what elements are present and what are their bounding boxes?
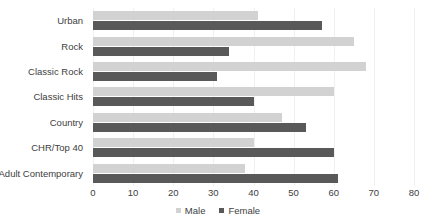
category-label: CHR/Top 40 <box>0 135 88 160</box>
chart-legend: MaleFemale <box>0 205 436 216</box>
bar-male <box>93 37 354 46</box>
bar-group <box>93 161 414 186</box>
bar-group <box>93 33 414 58</box>
legend-label: Female <box>228 205 260 216</box>
bar-female <box>93 47 229 56</box>
legend-item-male[interactable]: Male <box>176 205 206 216</box>
bar-group <box>93 110 414 135</box>
bar-group <box>93 8 414 33</box>
x-tick-label: 10 <box>128 187 139 198</box>
x-tick-label: 70 <box>369 187 380 198</box>
x-tick-label: 30 <box>208 187 219 198</box>
bar-male <box>93 164 245 173</box>
legend-item-female[interactable]: Female <box>219 205 260 216</box>
legend-label: Male <box>185 205 206 216</box>
bar-group <box>93 59 414 84</box>
bar-male <box>93 87 334 96</box>
gridline <box>414 8 415 186</box>
category-label: Classic Hits <box>0 84 88 109</box>
bar-group <box>93 135 414 160</box>
x-tick-label: 50 <box>288 187 299 198</box>
plot-area <box>93 8 414 186</box>
x-tick-label: 60 <box>328 187 339 198</box>
female-swatch-icon <box>219 208 224 213</box>
bar-male <box>93 138 254 147</box>
chart-title <box>0 0 436 5</box>
male-swatch-icon <box>176 208 181 213</box>
x-tick-label: 20 <box>168 187 179 198</box>
bar-female <box>93 72 217 81</box>
bar-female <box>93 123 306 132</box>
category-label: Country <box>0 110 88 135</box>
bar-male <box>93 113 282 122</box>
category-label: Urban <box>0 8 88 33</box>
x-tick-label: 0 <box>90 187 95 198</box>
category-label: Classic Rock <box>0 59 88 84</box>
bar-female <box>93 148 334 157</box>
x-tick-label: 40 <box>248 187 259 198</box>
x-axis-labels: 01020304050607080 <box>93 187 414 203</box>
bar-male <box>93 11 258 20</box>
x-tick-label: 80 <box>409 187 420 198</box>
bar-female <box>93 21 322 30</box>
category-axis-labels: UrbanRockClassic RockClassic HitsCountry… <box>0 8 88 186</box>
bar-chart: UrbanRockClassic RockClassic HitsCountry… <box>0 0 436 224</box>
bar-group <box>93 84 414 109</box>
category-label: Rock <box>0 33 88 58</box>
bar-female <box>93 97 254 106</box>
bar-male <box>93 62 366 71</box>
bar-rows <box>93 8 414 186</box>
category-label: Adult Contemporary <box>0 161 88 186</box>
bar-female <box>93 174 338 183</box>
